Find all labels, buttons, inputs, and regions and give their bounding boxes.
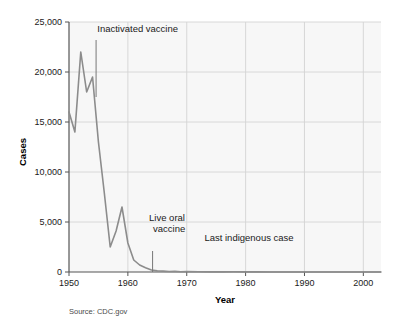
x-axis-title: Year: [215, 294, 235, 305]
x-tick-label: 1970: [177, 278, 197, 288]
annotation-inactivated-vaccine: Inactivated vaccine: [97, 23, 178, 34]
y-axis-tick-labels: 05,00010,00015,00020,00025,000: [34, 17, 62, 277]
x-tick-label: 1950: [59, 278, 79, 288]
x-tick-label: 1990: [294, 278, 314, 288]
y-tick-label: 0: [57, 267, 62, 277]
y-tick-label: 5,000: [39, 217, 62, 227]
y-tick-label: 20,000: [34, 67, 62, 77]
annotation-live-oral-vaccine-line1: Live oral: [149, 212, 185, 223]
y-tick-label: 25,000: [34, 17, 62, 27]
polio-cases-line-chart: 05,00010,00015,00020,00025,000 195019601…: [0, 0, 393, 333]
annotation-live-oral-vaccine-line2: vaccine: [153, 223, 185, 234]
y-tick-label: 10,000: [34, 167, 62, 177]
x-tick-label: 1980: [236, 278, 256, 288]
source-caption: Source: CDC.gov: [69, 307, 128, 316]
x-tick-label: 1960: [118, 278, 138, 288]
x-axis-tick-labels: 195019601970198019902000: [59, 278, 373, 288]
chart-figure: 05,00010,00015,00020,00025,000 195019601…: [0, 0, 393, 333]
annotation-last-indigenous-case: Last indigenous case: [204, 232, 293, 243]
y-axis-title: Cases: [17, 138, 28, 166]
y-tick-label: 15,000: [34, 117, 62, 127]
x-tick-label: 2000: [353, 278, 373, 288]
